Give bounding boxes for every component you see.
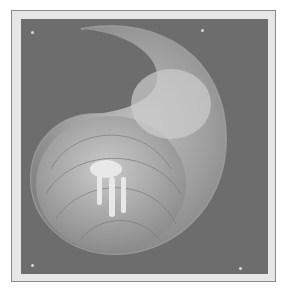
frame-dot [31, 264, 34, 267]
frame-dot [31, 31, 34, 34]
frame-dot [201, 29, 204, 32]
nautilus-shell-illustration [21, 19, 268, 274]
nautilus-photo [21, 19, 268, 274]
frame-dot [239, 267, 242, 270]
